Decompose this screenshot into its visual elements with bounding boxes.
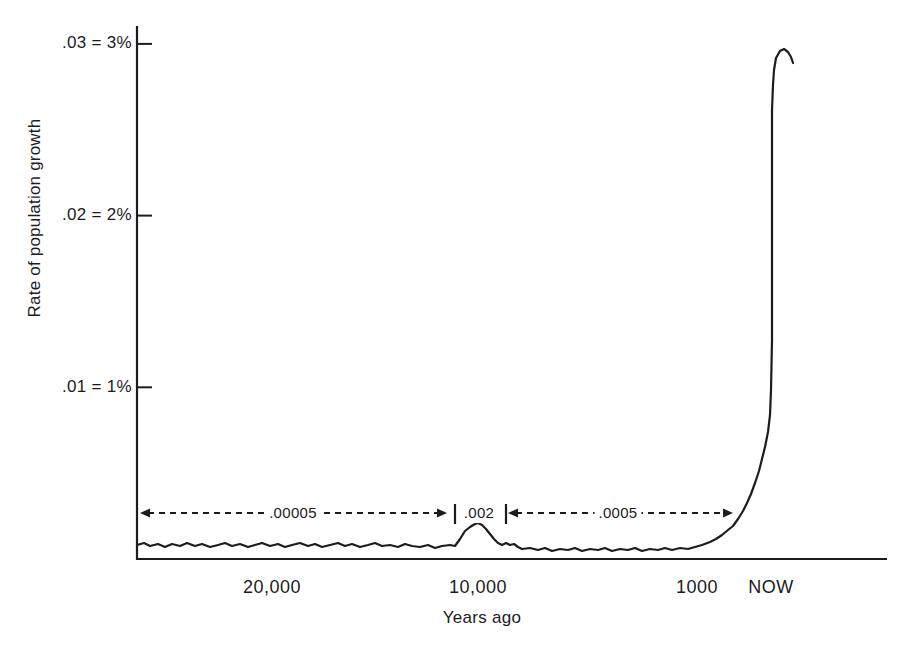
y-tick-label-1pct: .01 = 1% — [38, 377, 132, 397]
y-tick-label-2pct: .02 = 2% — [38, 205, 132, 225]
x-tick-label-10000: 10,000 — [418, 577, 538, 597]
arrowhead-left-icon — [140, 509, 150, 518]
rate-annotation-00005: .00005 — [265, 503, 321, 523]
arrowhead-right-icon — [723, 509, 733, 518]
population-growth-chart: .03 = 3% .02 = 2% .01 = 1% 20,000 10,000… — [0, 0, 908, 657]
growth-curve — [137, 49, 793, 551]
chart-canvas — [0, 0, 908, 657]
arrowhead-left-icon — [508, 509, 518, 518]
axes-line — [137, 26, 887, 559]
rate-annotation-002: .002 — [460, 503, 498, 523]
y-tick-label-3pct: .03 = 3% — [38, 33, 132, 53]
arrowhead-right-icon — [437, 509, 447, 518]
rate-annotation-0005: .0005 — [594, 503, 641, 523]
y-axis-title: Rate of population growth — [25, 119, 45, 318]
x-tick-label-now: NOW — [711, 577, 831, 597]
x-axis-title: Years ago — [443, 608, 522, 628]
x-tick-label-20000: 20,000 — [212, 577, 332, 597]
